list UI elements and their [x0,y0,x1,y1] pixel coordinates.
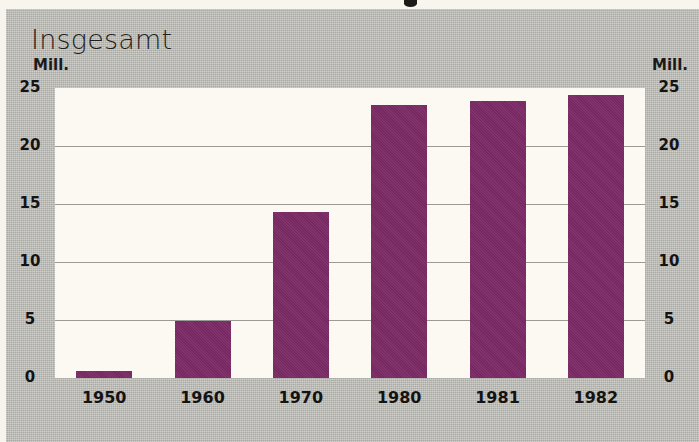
y-tick-left-0: 0 [13,368,47,386]
x-label-1960: 1960 [163,388,243,407]
y-tick-right-5: 5 [652,310,686,328]
y-tick-right-10: 10 [652,252,686,270]
top-white-strip [0,0,699,9]
bar-1950 [76,371,132,378]
y-tick-right-15: 15 [652,194,686,212]
y-tick-left-5: 5 [13,310,47,328]
bars-layer [55,88,645,378]
x-label-1981: 1981 [458,388,538,407]
x-label-1982: 1982 [556,388,636,407]
y-axis-unit-label-right: Mill. [652,56,688,74]
bar-1982 [568,95,624,378]
plot-area [55,88,645,378]
y-tick-right-0: 0 [652,368,686,386]
chart-title: Insgesamt [31,24,172,55]
x-label-1970: 1970 [261,388,341,407]
cropped-heading-descender [404,0,417,7]
y-tick-left-15: 15 [13,194,47,212]
x-label-1950: 1950 [64,388,144,407]
y-axis-unit-label-left: Mill. [33,56,69,74]
y-tick-right-25: 25 [652,78,686,96]
y-tick-left-10: 10 [13,252,47,270]
bar-1980 [371,105,427,378]
y-tick-left-25: 25 [13,78,47,96]
bar-1970 [273,212,329,378]
bar-1960 [175,321,231,378]
y-tick-left-20: 20 [13,136,47,154]
bar-1981 [470,101,526,378]
x-label-1980: 1980 [359,388,439,407]
y-tick-right-20: 20 [652,136,686,154]
chart-figure: Insgesamt Mill. Mill. 0510152025 0510152… [0,0,699,442]
